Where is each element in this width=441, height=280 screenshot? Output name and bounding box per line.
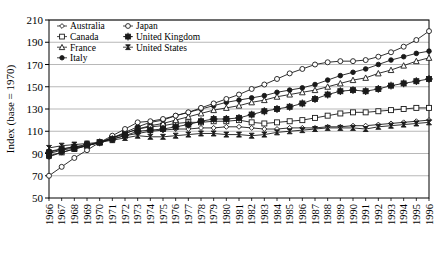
chart-canvas: 507090110130150170190210Index (base = 19… [0,0,441,280]
legend-item-france[interactable]: France [57,43,96,53]
data-point-marker [237,92,242,97]
data-point-marker [351,59,356,64]
x-tick-label: 1988 [322,204,333,225]
data-point-marker [427,29,432,34]
data-point-marker [59,164,64,169]
series-united-kingdom [45,75,433,156]
data-point-marker [426,55,432,60]
x-tick-label: 1972 [120,204,131,225]
legend-item-canada[interactable]: Canada [57,32,99,42]
legend-item-italy[interactable]: Italy [57,53,88,63]
x-tick-label: 1991 [360,204,371,225]
data-point-marker [414,51,419,56]
y-tick-label: 90 [32,148,44,160]
data-point-marker [300,118,305,123]
series-group [45,29,433,179]
legend-label: United States [136,43,187,53]
y-axis: 507090110130150170190210 [27,14,50,204]
legend-label: United Kingdom [136,32,201,42]
data-point-marker [186,110,191,115]
data-point-marker [363,58,368,63]
x-tick-label: 1982 [246,204,257,225]
y-tick-label: 110 [27,125,44,137]
data-point-marker [275,120,280,125]
x-tick-label: 1980 [221,204,232,225]
data-point-marker [287,71,292,76]
data-point-marker [351,70,356,75]
legend-item-united-kingdom[interactable]: United Kingdom [123,32,201,42]
data-point-marker [338,73,343,78]
data-point-marker [47,173,52,178]
data-point-marker [199,125,204,130]
data-point-marker [199,105,204,110]
data-point-marker [427,105,432,110]
data-point-marker [363,67,368,72]
x-tick-label: 1967 [56,204,67,225]
data-point-marker [427,49,432,54]
y-tick-label: 170 [27,59,44,71]
y-tick-label: 70 [32,170,44,182]
data-point-marker [376,62,381,67]
legend-label: Japan [136,21,158,31]
data-point-marker [287,119,292,124]
data-point-marker [313,115,318,120]
x-tick-label: 1989 [335,204,346,225]
x-tick-label: 1985 [284,204,295,225]
x-tick-label: 1990 [348,204,359,225]
x-tick-label: 1992 [373,204,384,225]
chart-figure: 507090110130150170190210Index (base = 19… [0,0,441,280]
data-point-marker [161,117,166,122]
y-tick-label: 50 [32,192,44,204]
data-point-marker [60,24,65,29]
data-point-marker [275,76,280,81]
data-point-marker [313,62,318,67]
data-point-marker [237,124,242,129]
legend-label: Australia [70,21,106,31]
x-tick-label: 1984 [272,203,283,225]
data-point-marker [211,125,216,130]
data-point-marker [275,90,280,95]
data-point-marker [401,44,406,49]
data-point-marker [376,54,381,59]
x-tick-label: 1973 [132,204,143,225]
data-point-marker [325,78,330,83]
data-point-marker [389,58,394,63]
data-point-marker [401,107,406,112]
data-point-marker [414,38,419,43]
y-tick-label: 130 [27,103,44,115]
legend-label: Canada [70,32,99,42]
data-point-marker [262,127,267,132]
data-point-marker [249,86,254,91]
data-point-marker [363,110,368,115]
x-tick-label: 1979 [208,204,219,225]
x-tick-label: 1976 [170,204,181,225]
data-point-marker [338,59,343,64]
data-point-marker [388,67,394,72]
data-point-marker [363,75,369,80]
legend-item-australia[interactable]: Australia [57,21,106,31]
data-point-marker [325,113,330,118]
data-point-marker [262,121,267,126]
y-axis-title: Index (base = 1970) [4,64,17,153]
y-tick-label: 210 [27,14,44,26]
data-point-marker [60,56,64,60]
data-point-marker [148,119,153,124]
data-point-marker [313,82,318,87]
legend: AustraliaJapanCanadaUnited KingdomFrance… [55,18,230,65]
x-tick-label: 1977 [183,204,194,225]
legend-item-japan[interactable]: Japan [123,21,158,31]
data-point-marker [123,127,128,132]
legend-item-united-states[interactable]: United States [123,43,187,53]
data-point-marker [249,96,254,101]
data-point-marker [224,96,229,101]
data-point-marker [173,113,178,118]
data-point-marker [249,125,254,130]
x-tick-label: 1969 [82,204,93,225]
data-point-marker [401,63,407,68]
x-tick-label: 1975 [158,204,169,225]
x-tick-label: 1987 [310,204,321,225]
data-point-marker [414,105,419,110]
data-point-marker [338,111,343,116]
x-tick-label: 1970 [94,204,105,225]
data-point-marker [262,93,267,98]
